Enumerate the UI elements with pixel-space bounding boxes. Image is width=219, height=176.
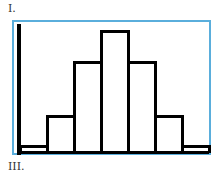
- histogram-bar: [73, 61, 103, 153]
- histogram-bar: [100, 30, 130, 153]
- histogram-bar: [46, 115, 76, 153]
- y-axis: [17, 24, 21, 155]
- chart-label-top: I.: [8, 2, 16, 15]
- x-axis-baseline: [17, 151, 209, 154]
- histogram-bar: [154, 115, 184, 153]
- histogram-bar: [127, 61, 157, 153]
- chart-label-bottom: III.: [8, 160, 25, 173]
